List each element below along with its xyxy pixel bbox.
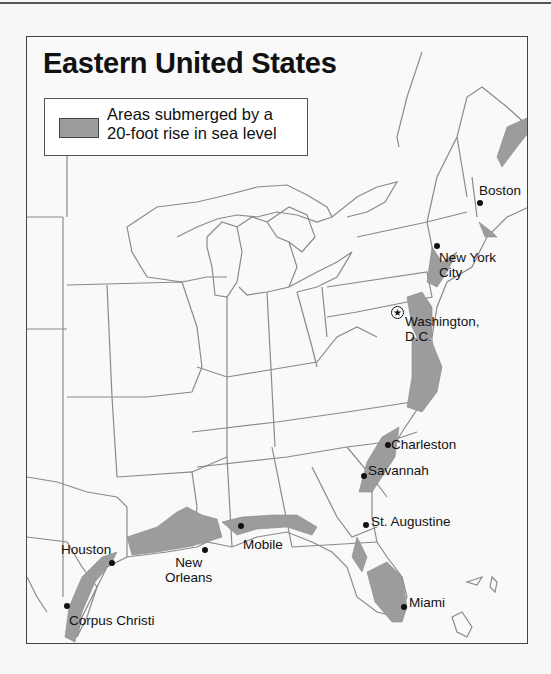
city-label-charleston: Charleston [391, 437, 456, 452]
city-label-mobile: Mobile [243, 537, 283, 552]
city-marker-corpus-christi [64, 603, 70, 609]
city-marker-new-orleans [202, 547, 208, 553]
city-label-new-orleans-line1: New [165, 555, 212, 570]
city-label-new-orleans: New Orleans [165, 555, 212, 585]
city-label-new-york: New York City [439, 250, 496, 280]
city-marker-mobile [238, 523, 244, 529]
city-label-new-york-line1: New York [439, 250, 496, 265]
map-title: Eastern United States [43, 47, 336, 80]
city-label-miami: Miami [409, 595, 445, 610]
legend-swatch-submerged [59, 118, 99, 138]
city-label-washington-line2: D.C. [405, 329, 480, 344]
city-label-new-orleans-line2: Orleans [165, 570, 212, 585]
city-label-boston: Boston [479, 183, 521, 198]
city-marker-new-york [434, 243, 440, 249]
city-label-houston: Houston [61, 542, 111, 557]
map-frame: Eastern United States Areas submerged by… [26, 36, 528, 644]
city-label-washington: Washington, D.C. [405, 314, 480, 344]
legend: Areas submerged by a 20-foot rise in sea… [44, 98, 308, 156]
city-label-savannah: Savannah [368, 463, 429, 478]
city-label-new-york-line2: City [439, 265, 496, 280]
city-label-corpus-christi: Corpus Christi [69, 613, 155, 628]
city-marker-boston [477, 200, 483, 206]
city-marker-st-augustine [363, 522, 369, 528]
city-label-washington-line1: Washington, [405, 314, 480, 329]
city-label-st-augustine: St. Augustine [371, 514, 451, 529]
capital-star-icon: ★ [391, 306, 404, 319]
legend-line-1: Areas submerged by a [107, 105, 277, 124]
city-marker-miami [401, 604, 407, 610]
city-marker-houston [109, 560, 115, 566]
top-rule [0, 2, 551, 4]
submerged-areas [65, 117, 528, 642]
legend-label: Areas submerged by a 20-foot rise in sea… [107, 105, 277, 143]
legend-line-2: 20-foot rise in sea level [107, 124, 277, 143]
city-marker-savannah [361, 473, 367, 479]
